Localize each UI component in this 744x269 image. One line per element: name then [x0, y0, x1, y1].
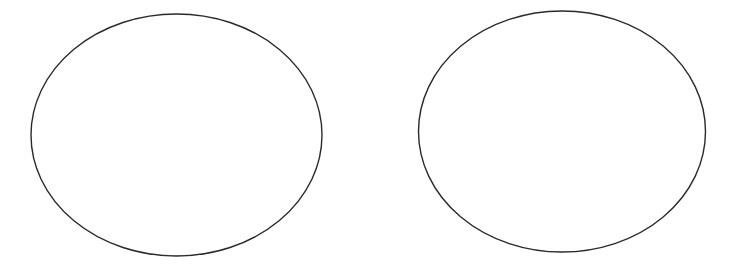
left-ellipse [31, 14, 322, 256]
diagram-canvas [0, 0, 744, 269]
right-ellipse [419, 11, 706, 252]
